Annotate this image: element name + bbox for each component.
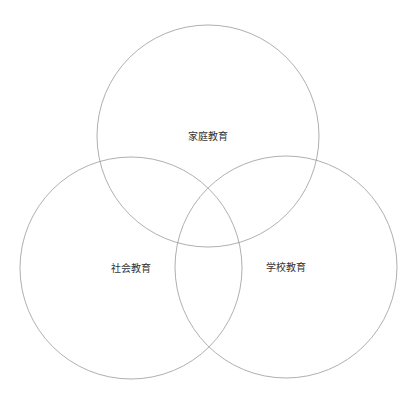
circle-family: 家庭教育: [97, 25, 319, 247]
circle-society: 社会教育: [20, 157, 242, 379]
venn-diagram: 家庭教育 社会教育 学校教育: [0, 0, 417, 397]
label-society: 社会教育: [111, 262, 151, 274]
circle-school: 学校教育: [175, 156, 397, 378]
label-family: 家庭教育: [188, 130, 228, 142]
label-school: 学校教育: [266, 261, 306, 273]
